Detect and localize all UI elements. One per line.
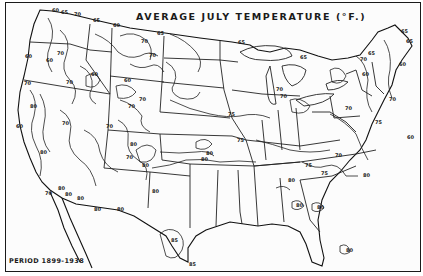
isotherm-label: 80 bbox=[317, 204, 324, 210]
us-isotherm-map: 60 65 70 65 60 65 70 70 60 60 70 60 70 6… bbox=[0, 0, 423, 276]
isotherms bbox=[30, 18, 392, 258]
isotherm-label: 65 bbox=[300, 54, 307, 60]
isotherm-label: 70 bbox=[62, 120, 69, 126]
isotherm-label: 65 bbox=[406, 38, 413, 44]
isotherm-label: 70 bbox=[141, 38, 148, 44]
isotherm-label: 60 bbox=[46, 57, 53, 63]
isotherm-label: 80 bbox=[363, 172, 370, 178]
isotherm-label: 65 bbox=[401, 28, 408, 34]
isotherm-label: 80 bbox=[142, 162, 149, 168]
isotherm-label: 70 bbox=[74, 11, 81, 17]
isotherm-label: 60 bbox=[362, 71, 369, 77]
isotherm-label: 70 bbox=[280, 93, 287, 99]
isotherm-label: 70 bbox=[66, 79, 73, 85]
isotherm-label: 80 bbox=[77, 195, 84, 201]
isotherm-label: 70 bbox=[276, 86, 283, 92]
isotherm-label: 65 bbox=[157, 30, 164, 36]
isotherm-label: 80 bbox=[346, 247, 353, 253]
period-caption: PERIOD 1899-1938 bbox=[9, 257, 84, 265]
isotherm-label: 70 bbox=[106, 123, 113, 129]
map-title: AVERAGE JULY TEMPERATURE (°F.) bbox=[136, 11, 366, 22]
isotherm-label: 70 bbox=[57, 50, 64, 56]
isotherm-label: 70 bbox=[128, 103, 135, 109]
isotherm-label: 75 bbox=[305, 162, 312, 168]
isotherm-label: 60 bbox=[16, 123, 23, 129]
isotherm-label: 70 bbox=[389, 96, 396, 102]
isotherm-label: 60 bbox=[25, 53, 32, 59]
isotherm-label: 85 bbox=[189, 261, 196, 267]
isotherm-label: 80 bbox=[201, 156, 208, 162]
isotherm-label: 60 bbox=[124, 77, 131, 83]
isotherm-label: 75 bbox=[237, 137, 244, 143]
isotherm-label: 80 bbox=[30, 103, 37, 109]
coastline bbox=[18, 10, 412, 268]
isotherm-label: 70 bbox=[139, 96, 146, 102]
isotherm-label: 75 bbox=[375, 119, 382, 125]
isotherm-label: 70 bbox=[345, 105, 352, 111]
isotherm-label: 65 bbox=[93, 17, 100, 23]
isotherm-label: 60 bbox=[399, 61, 406, 67]
isotherm-label: 80 bbox=[65, 191, 72, 197]
isotherm-label: 80 bbox=[94, 206, 101, 212]
isotherm-label: 80 bbox=[296, 202, 303, 208]
isotherm-label: 80 bbox=[206, 150, 213, 156]
isotherm-label: 80 bbox=[40, 149, 47, 155]
isotherm-label: 70 bbox=[126, 154, 133, 160]
isotherm-label: 65 bbox=[368, 50, 375, 56]
isotherm-label: 65 bbox=[238, 39, 245, 45]
isotherm-label: 60 bbox=[113, 22, 120, 28]
isotherm-label: 80 bbox=[152, 188, 159, 194]
isotherm-label: 60 bbox=[91, 71, 98, 77]
isotherm-label: 60 bbox=[52, 7, 59, 13]
isotherm-label: 65 bbox=[61, 9, 68, 15]
isotherm-label: 60 bbox=[407, 134, 414, 140]
isotherm-label: 70 bbox=[335, 152, 342, 158]
isotherm-label: 70 bbox=[360, 56, 367, 62]
isotherm-label: 75 bbox=[321, 170, 328, 176]
isotherm-label: 80 bbox=[117, 206, 124, 212]
isotherm-label: 85 bbox=[171, 237, 178, 243]
great-lakes bbox=[240, 46, 348, 106]
isotherm-label: 75 bbox=[228, 111, 235, 117]
isotherm-label: 70 bbox=[24, 80, 31, 86]
isotherm-label: 80 bbox=[288, 177, 295, 183]
isotherm-label: 80 bbox=[130, 141, 137, 147]
isotherm-label: 70 bbox=[45, 190, 52, 196]
isotherm-label: 70 bbox=[149, 52, 156, 58]
